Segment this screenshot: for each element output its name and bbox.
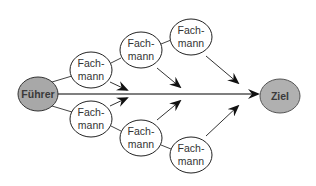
expert-label-line2: mann xyxy=(78,119,104,131)
expert-label-line1: Fach- xyxy=(178,24,205,36)
arrow-lower1 xyxy=(110,98,127,106)
link-upper2-upper3 xyxy=(161,40,171,44)
arrow-upper3 xyxy=(206,56,238,83)
expert-label-line2: mann xyxy=(178,155,204,167)
expert-label-line2: mann xyxy=(78,70,104,82)
expert-label-line1: Fach- xyxy=(128,125,155,137)
arrow-upper1 xyxy=(110,82,127,90)
expert-node-lower-3: Fach- mann xyxy=(170,137,212,173)
expert-node-upper-1: Fach- mann xyxy=(70,52,112,88)
expert-node-upper-3: Fach- mann xyxy=(170,19,212,55)
diagram-canvas: Führer Ziel Fach- mann Fach- mann Fach- … xyxy=(0,0,316,186)
link-leader-lower1 xyxy=(52,106,72,112)
goal-node: Ziel xyxy=(260,79,300,113)
arrow-lower3 xyxy=(206,106,238,136)
expert-label-line1: Fach- xyxy=(128,37,155,49)
expert-label-line1: Fach- xyxy=(178,142,205,154)
expert-label-line1: Fach- xyxy=(78,57,105,69)
expert-label-line2: mann xyxy=(178,37,204,49)
arrow-lower2 xyxy=(157,101,180,120)
expert-label-line2: mann xyxy=(128,50,154,62)
goal-label: Ziel xyxy=(271,90,289,102)
expert-node-upper-2: Fach- mann xyxy=(120,32,162,68)
expert-node-lower-2: Fach- mann xyxy=(120,120,162,156)
expert-label-line1: Fach- xyxy=(78,106,105,118)
link-lower1-lower2 xyxy=(111,126,121,131)
link-lower2-lower3 xyxy=(161,145,171,149)
expert-node-lower-1: Fach- mann xyxy=(70,101,112,137)
leader-node: Führer xyxy=(18,77,58,111)
link-upper1-upper2 xyxy=(111,58,121,63)
expert-label-line2: mann xyxy=(128,138,154,150)
arrow-upper2 xyxy=(157,68,180,87)
link-leader-upper1 xyxy=(52,76,72,82)
leader-label: Führer xyxy=(21,88,54,100)
